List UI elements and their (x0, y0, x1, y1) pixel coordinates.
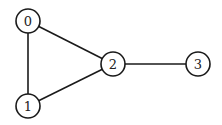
node-label: 2 (109, 57, 117, 72)
edge-1-2 (28, 64, 113, 106)
node-2: 2 (101, 52, 125, 76)
node-label: 0 (24, 14, 32, 29)
node-label: 1 (24, 99, 32, 114)
node-1: 1 (16, 94, 40, 118)
node-label: 3 (194, 57, 202, 72)
graph-diagram: 0123 (0, 0, 222, 125)
edge-0-2 (28, 21, 113, 64)
node-3: 3 (186, 52, 210, 76)
node-0: 0 (16, 9, 40, 33)
